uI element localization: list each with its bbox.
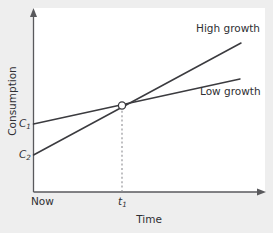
- y-tick-label-c1: C1: [19, 118, 31, 130]
- x-tick-label-t1-subscript: 1: [122, 200, 127, 209]
- x-tick-label-now: Now: [31, 196, 54, 208]
- x-tick-label-t1: t1: [118, 196, 127, 208]
- y-tick-label-c2-subscript: 2: [26, 153, 31, 162]
- series-label-low-growth: Low growth: [200, 86, 261, 98]
- x-axis-label: Time: [33, 214, 265, 226]
- series-label-high-growth: High growth: [196, 23, 260, 35]
- y-tick-label-c2: C2: [19, 149, 31, 161]
- figure-container: Consumption High growth Low growth C1 C2…: [0, 0, 273, 233]
- series-line-high-growth: [34, 43, 242, 155]
- x-axis-arrowhead: [257, 189, 266, 196]
- y-axis-arrowhead: [30, 8, 37, 17]
- intersection-point-marker: [118, 102, 125, 109]
- y-tick-label-c1-subscript: 1: [26, 122, 31, 131]
- y-axis-label: Consumption: [6, 61, 18, 141]
